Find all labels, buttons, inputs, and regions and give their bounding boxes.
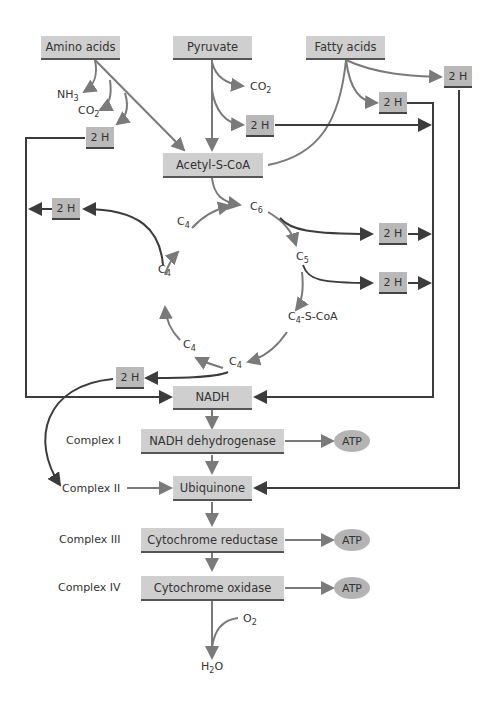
scoa-suffix: -S-CoA [301, 310, 338, 323]
o2-sub: 2 [252, 618, 257, 627]
ubiquinone-box: Ubiquinone [173, 476, 252, 501]
o2-text: O [243, 612, 252, 625]
nh3-label: NH3 [57, 88, 79, 103]
complex2-label: Complex II [62, 482, 120, 495]
2h-pyruvate-box: 2 H [246, 115, 274, 137]
c-text: C [177, 215, 185, 228]
nh3-sub: 3 [74, 94, 79, 103]
cycle-c4-scoa: C4-S-CoA [288, 310, 338, 325]
c4-sub: 4 [166, 269, 171, 278]
atp-complex1: ATP [334, 430, 370, 452]
2h-fatty-far-box: 2 H [444, 66, 472, 88]
atp-complex4: ATP [334, 577, 370, 599]
2h-cycle-bottom-box: 2 H [116, 367, 144, 389]
c-text: C [288, 310, 296, 323]
co2-text: CO [78, 104, 94, 117]
cycle-c4-bottom: C4 [229, 355, 242, 370]
nh3-text: NH [57, 88, 74, 101]
nadh-box: NADH [173, 386, 252, 410]
amino-acids-box: Amino acids [41, 36, 120, 60]
h2o-label: H2O [201, 660, 223, 675]
c4-sub: 4 [237, 361, 242, 370]
complex1-label: Complex I [66, 434, 121, 447]
c4-sub: 4 [185, 221, 190, 230]
co2-amino-label: CO2 [78, 104, 99, 119]
2h-amino-box: 2 H [86, 127, 114, 149]
cycle-c4-upper-left: C4 [177, 215, 190, 230]
2h-cycle-c6-box: 2 H [379, 223, 407, 245]
c-text: C [229, 355, 237, 368]
2h-fatty-box: 2 H [379, 92, 407, 114]
fatty-acids-box: Fatty acids [306, 36, 385, 60]
cycle-c5: C5 [296, 250, 309, 265]
co2-sub: 2 [94, 110, 99, 119]
cycle-c4-lower-left: C4 [183, 338, 196, 353]
co2-pyruvate-label: CO2 [250, 80, 271, 95]
2h-cycle-c5-box: 2 H [379, 272, 407, 294]
nadh-dehydrogenase-box: NADH dehydrogenase [141, 429, 284, 454]
c-text: C [183, 338, 191, 351]
atp-complex3: ATP [334, 529, 370, 551]
2h-cycle-left-box: 2 H [52, 198, 80, 220]
c-text: C [158, 263, 166, 276]
co2-text: CO [250, 80, 266, 93]
complex4-label: Complex IV [58, 581, 121, 594]
o2-label: O2 [243, 612, 257, 627]
pyruvate-box: Pyruvate [173, 36, 252, 60]
c5-sub: 5 [304, 256, 309, 265]
cytochrome-reductase-box: Cytochrome reductase [141, 528, 284, 553]
c-text: C [250, 200, 258, 213]
complex3-label: Complex III [59, 533, 120, 546]
acetyl-coa-box: Acetyl-S-CoA [163, 153, 263, 178]
co2-sub: 2 [266, 86, 271, 95]
cycle-c4-left: C4 [158, 263, 171, 278]
c4-sub: 4 [191, 344, 196, 353]
c-text: C [296, 250, 304, 263]
o-text: O [214, 660, 223, 673]
cycle-c6: C6 [250, 200, 263, 215]
cytochrome-oxidase-box: Cytochrome oxidase [141, 576, 284, 601]
c6-sub: 6 [258, 206, 263, 215]
